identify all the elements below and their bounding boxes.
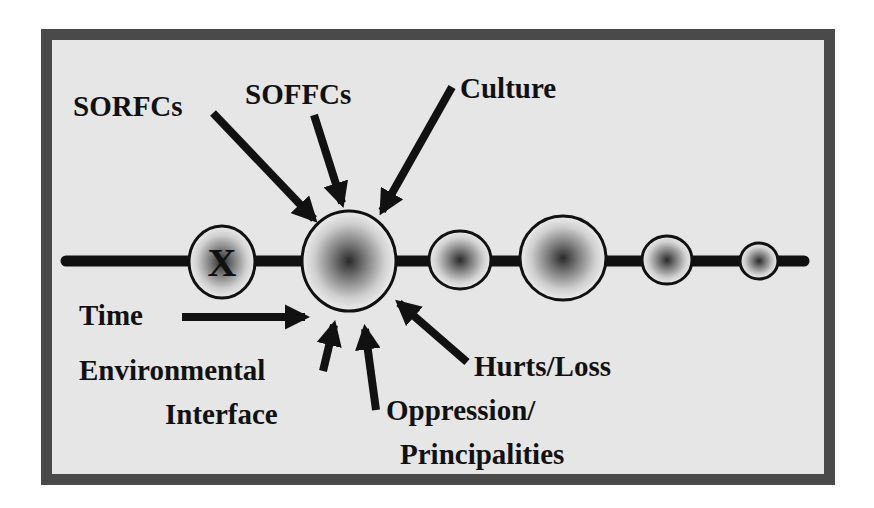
label-time: Time [79,299,143,331]
label-environmental: Environmental [79,354,265,386]
timeline-node-3 [429,231,491,289]
focal-node [302,211,396,311]
label-sorfcs: SORFCs [73,90,183,122]
label-soffcs: SOFFCs [245,78,351,110]
label-principalities: Principalities [400,438,564,470]
timeline-node-4 [520,216,606,300]
label-oppression: Oppression/ [386,394,536,426]
timeline-node-6 [740,243,778,279]
label-hurts-loss: Hurts/Loss [474,350,611,382]
label-culture: Culture [460,72,556,104]
x-node-label: X [208,240,237,285]
life-timeline-diagram: X SORFCs SOFFCs Culture Time Environment… [0,0,874,508]
timeline-node-5 [642,236,692,284]
label-interface: Interface [165,398,278,430]
